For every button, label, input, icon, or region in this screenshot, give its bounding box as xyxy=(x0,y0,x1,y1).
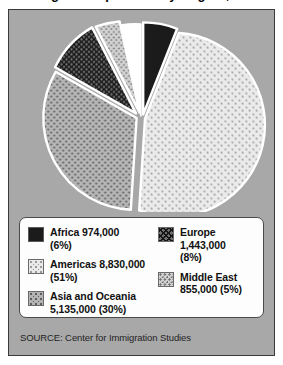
legend-asia-line1: Asia and Oceania xyxy=(50,290,136,302)
legend-africa-line2: (6%) xyxy=(50,239,72,251)
chart-title: Immigrant Population by Region, 2010 xyxy=(0,0,283,2)
legend-swatch-europe-icon xyxy=(158,227,174,242)
legend-africa-line1: Africa 974,000 xyxy=(50,226,119,238)
legend-swatch-americas-icon xyxy=(28,259,44,274)
chart-panel: Africa 974,000 (6%) Americas 8,830,000 (… xyxy=(8,9,275,356)
legend-label-asia: Asia and Oceania 5,135,000 (30%) xyxy=(50,290,136,315)
legend-europe-line2: (8%) xyxy=(180,251,202,263)
legend-item-asia[interactable]: Asia and Oceania 5,135,000 (30%) xyxy=(28,290,156,315)
pie-chart-figure: Immigrant Population by Region, 2010 xyxy=(0,0,283,365)
legend-item-africa[interactable]: Africa 974,000 (6%) xyxy=(28,226,156,251)
legend-label-middle-east: Middle East 855,000 (5%) xyxy=(180,271,242,296)
legend-americas-line1: Americas 8,830,000 xyxy=(50,258,145,270)
legend-item-europe[interactable]: Europe 1,443,000 (8%) xyxy=(158,226,262,264)
pie-svg xyxy=(9,12,274,212)
pie-area xyxy=(9,12,274,212)
legend-label-africa: Africa 974,000 (6%) xyxy=(50,226,119,251)
legend-label-americas: Americas 8,830,000 (51%) xyxy=(50,258,145,283)
legend-americas-line2: (51%) xyxy=(50,271,78,283)
legend-europe-line1: Europe 1,443,000 xyxy=(180,226,226,251)
legend-swatch-middle-east-icon xyxy=(158,272,174,287)
legend-asia-line2: 5,135,000 (30%) xyxy=(50,303,126,315)
chart-title-cropped: Immigrant Population by Region, 2010 xyxy=(0,0,283,9)
pie-slices xyxy=(43,22,265,213)
source-note: SOURCE: Center for Immigration Studies xyxy=(20,332,191,343)
legend-column-left: Africa 974,000 (6%) Americas 8,830,000 (… xyxy=(28,226,156,322)
legend-middle-east-line2: 855,000 (5%) xyxy=(180,283,242,295)
legend-label-europe: Europe 1,443,000 (8%) xyxy=(180,226,262,264)
legend-middle-east-line1: Middle East xyxy=(180,271,237,283)
legend-swatch-africa-icon xyxy=(28,227,44,242)
legend: Africa 974,000 (6%) Americas 8,830,000 (… xyxy=(19,217,264,318)
legend-item-americas[interactable]: Americas 8,830,000 (51%) xyxy=(28,258,156,283)
legend-swatch-asia-icon xyxy=(28,291,44,306)
legend-item-middle-east[interactable]: Middle East 855,000 (5%) xyxy=(158,271,262,296)
legend-column-right: Europe 1,443,000 (8%) Middle East 855,00… xyxy=(158,226,262,303)
